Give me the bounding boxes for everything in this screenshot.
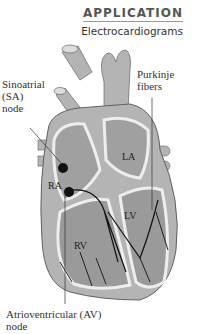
purkinje-label-line: fibers <box>137 80 174 92</box>
sa-node-label-line: (SA) <box>2 90 45 102</box>
label-lv: LV <box>124 210 136 221</box>
sa-node-label: Sinoatrial (SA) node <box>2 78 45 114</box>
av-node-marker <box>64 187 74 197</box>
purkinje-label-line: Purkinje <box>137 68 174 80</box>
purkinje-label: Purkinje fibers <box>137 68 174 92</box>
label-ra: RA <box>48 180 62 191</box>
label-rv: RV <box>74 240 87 251</box>
av-node-label: Atrioventricular (AV) node <box>6 308 101 332</box>
av-node-label-line: node <box>6 320 101 332</box>
sa-node-label-line: node <box>2 102 45 114</box>
sa-node-label-line: Sinoatrial <box>2 78 45 90</box>
sa-node-marker <box>58 163 68 173</box>
heart-diagram <box>0 0 197 334</box>
av-node-label-line: Atrioventricular (AV) <box>6 308 101 320</box>
label-la: LA <box>122 151 135 162</box>
